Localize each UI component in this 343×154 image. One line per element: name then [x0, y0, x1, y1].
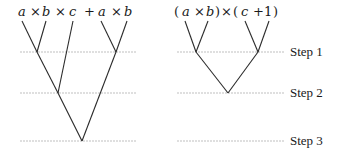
token-lparen2: ( — [233, 4, 238, 19]
token-a: a — [182, 4, 190, 19]
right-expression: ( a × b ) × ( c + 1 ) — [174, 4, 278, 19]
token-plus: + — [253, 4, 264, 19]
token-c: c — [241, 4, 249, 19]
token-plus: + — [84, 4, 95, 19]
token-rparen2: ) — [273, 4, 278, 19]
right-tree — [185, 21, 269, 93]
token-times2: × — [221, 4, 232, 19]
step-2-label: Step 2 — [290, 85, 323, 100]
token-c: c — [69, 4, 77, 19]
token-rparen1: ) — [215, 4, 220, 19]
token-times1: × — [194, 4, 205, 19]
step-1-label: Step 1 — [290, 44, 323, 59]
token-b: b — [206, 4, 214, 19]
token-times1: × — [30, 4, 41, 19]
left-tree — [22, 21, 127, 141]
token-times3: × — [111, 4, 122, 19]
step-3-label: Step 3 — [290, 133, 323, 148]
token-a2: a — [98, 4, 106, 19]
token-one: 1 — [264, 4, 272, 19]
parse-tree-diagram: a × b × c + a × b ( a × b ) × ( c + 1 ) — [0, 0, 343, 154]
token-b2: b — [124, 4, 132, 19]
token-lparen1: ( — [174, 4, 179, 19]
left-expression: a × b × c + a × b — [18, 4, 132, 19]
token-a1: a — [18, 4, 26, 19]
token-b1: b — [42, 4, 50, 19]
token-times2: × — [55, 4, 66, 19]
